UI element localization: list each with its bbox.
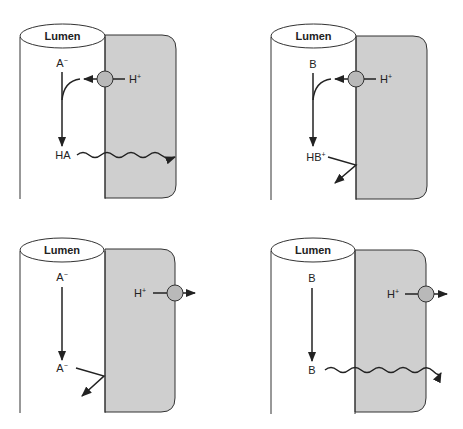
proton-pump-icon [97, 71, 113, 87]
proton-pump-icon [348, 71, 364, 87]
panel-bottom-left: Lumen A− H+ A− [20, 238, 195, 413]
panel-top-left: Lumen A− H+ HA [20, 24, 176, 199]
proton-join-curve [62, 79, 80, 100]
species-top-label: B [309, 58, 316, 70]
proton-pump-icon [418, 286, 434, 302]
epithelial-cell [355, 250, 426, 412]
reflection-arrow [76, 368, 104, 396]
species-bottom-label: HB+ [306, 151, 325, 163]
panel-bottom-right: Lumen B H+ B [271, 238, 447, 414]
species-top-label: A− [56, 57, 67, 69]
reflection-arrow [328, 157, 356, 183]
ion-trapping-diagram: Lumen A− H+ HA Lumen B H+ HB+ [0, 0, 463, 429]
lumen-label: Lumen [44, 30, 80, 42]
species-top-label: A− [56, 271, 67, 283]
species-bottom-label: B [308, 364, 315, 376]
lumen-label: Lumen [295, 244, 331, 256]
epithelial-cell [356, 36, 427, 199]
species-bottom-label: HA [55, 149, 71, 161]
proton-join-curve [313, 79, 331, 100]
panel-top-right: Lumen B H+ HB+ [271, 24, 427, 200]
proton-pump-icon [167, 285, 183, 301]
lumen-label: Lumen [295, 30, 331, 42]
epithelial-cell [105, 249, 175, 412]
species-bottom-label: A− [56, 362, 67, 374]
species-top-label: B [308, 272, 315, 284]
epithelial-cell [105, 35, 176, 198]
lumen-label: Lumen [44, 244, 80, 256]
